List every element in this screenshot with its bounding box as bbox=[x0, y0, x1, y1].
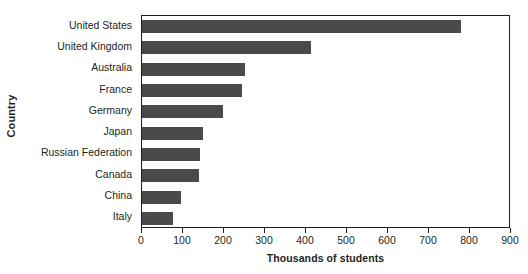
x-axis-tick-mark bbox=[264, 228, 265, 233]
x-axis-tick-mark bbox=[387, 228, 388, 233]
category-label: Japan bbox=[18, 126, 132, 137]
x-axis-tick-mark bbox=[182, 228, 183, 233]
x-axis-tick-labels: 0100200300400500600700800900 bbox=[0, 234, 528, 248]
bar bbox=[142, 20, 461, 33]
bar bbox=[142, 84, 242, 97]
x-axis-tick-label: 900 bbox=[501, 234, 519, 246]
category-label: United Kingdom bbox=[18, 41, 132, 52]
bar bbox=[142, 191, 181, 204]
category-label: Germany bbox=[18, 105, 132, 116]
x-axis-tick-mark bbox=[346, 228, 347, 233]
x-axis-tick-mark bbox=[469, 228, 470, 233]
bar bbox=[142, 41, 311, 54]
x-axis-tick-label: 700 bbox=[419, 234, 437, 246]
plot-area bbox=[141, 15, 510, 228]
category-label: France bbox=[18, 84, 132, 95]
x-axis-tick-label: 600 bbox=[378, 234, 396, 246]
x-axis-tick-label: 100 bbox=[173, 234, 191, 246]
x-axis-tick-mark bbox=[510, 228, 511, 233]
category-label: Canada bbox=[18, 169, 132, 180]
bar bbox=[142, 127, 203, 140]
category-label: United States bbox=[18, 20, 132, 31]
x-axis-title: Thousands of students bbox=[141, 252, 510, 264]
x-axis-tick-label: 300 bbox=[255, 234, 273, 246]
x-axis-tick-label: 200 bbox=[214, 234, 232, 246]
x-axis-tick-mark bbox=[223, 228, 224, 233]
category-axis-labels: United StatesUnited KingdomAustraliaFran… bbox=[22, 15, 136, 228]
x-axis-tick-label: 0 bbox=[138, 234, 144, 246]
bar bbox=[142, 169, 199, 182]
bar-chart-figure: Country United StatesUnited KingdomAustr… bbox=[0, 0, 528, 274]
y-axis-title-label: Country bbox=[5, 95, 17, 138]
category-label: Australia bbox=[18, 62, 132, 73]
bar bbox=[142, 63, 245, 76]
x-axis-tick-mark bbox=[428, 228, 429, 233]
bar bbox=[142, 148, 200, 161]
category-label: Russian Federation bbox=[18, 147, 132, 158]
x-axis-tick-mark bbox=[305, 228, 306, 233]
x-axis-tick-label: 800 bbox=[460, 234, 478, 246]
x-axis-tick-label: 500 bbox=[337, 234, 355, 246]
category-label: China bbox=[18, 190, 132, 201]
bar bbox=[142, 212, 173, 225]
bar bbox=[142, 105, 223, 118]
category-label: Italy bbox=[18, 211, 132, 222]
x-axis-tick-mark bbox=[141, 228, 142, 233]
x-axis-tick-label: 400 bbox=[296, 234, 314, 246]
